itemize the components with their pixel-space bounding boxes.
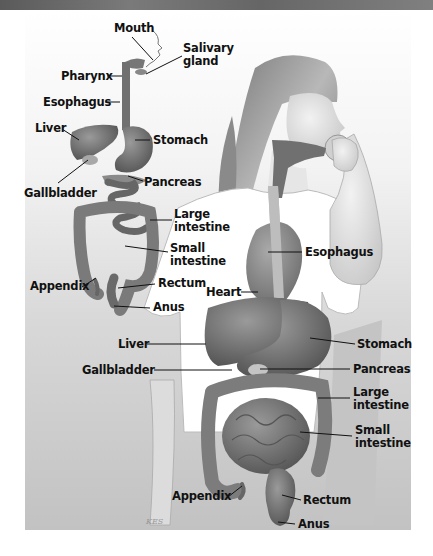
label-line: intestine: [170, 255, 226, 268]
label-line: intestine: [353, 399, 409, 412]
label-salivary-gland-schematic: Salivary gland: [183, 42, 234, 68]
label-esophagus-schematic: Esophagus: [43, 96, 111, 109]
label-small-intestine-figure: Small intestine: [355, 424, 411, 450]
label-pancreas-figure: Pancreas: [353, 363, 410, 376]
artist-signature: KES: [146, 517, 163, 526]
label-line: intestine: [174, 221, 230, 234]
label-stomach-figure: Stomach: [357, 338, 412, 351]
label-mouth-schematic: Mouth: [114, 22, 154, 35]
label-line: gland: [183, 55, 234, 68]
label-gallbladder-schematic: Gallbladder: [24, 187, 97, 200]
label-stomach-schematic: Stomach: [153, 134, 208, 147]
label-gallbladder-figure: Gallbladder: [82, 364, 155, 377]
label-appendix-schematic: Appendix: [30, 280, 89, 293]
label-appendix-figure: Appendix: [172, 490, 231, 503]
label-rectum-schematic: Rectum: [158, 277, 206, 290]
label-esophagus-figure: Esophagus: [305, 246, 373, 259]
label-liver-schematic: Liver: [35, 122, 66, 135]
label-line: intestine: [355, 437, 411, 450]
label-pancreas-schematic: Pancreas: [144, 176, 201, 189]
label-heart-figure: Heart: [206, 286, 241, 299]
digestive-illustration: [0, 0, 433, 556]
label-large-intestine-schematic: Large intestine: [174, 208, 230, 234]
label-large-intestine-figure: Large intestine: [353, 386, 409, 412]
woman-figure: [144, 55, 382, 526]
label-anus-figure: Anus: [298, 518, 329, 531]
label-anus-schematic: Anus: [153, 301, 184, 314]
label-liver-figure: Liver: [118, 338, 149, 351]
label-pharynx-schematic: Pharynx: [61, 70, 113, 83]
label-small-intestine-schematic: Small intestine: [170, 242, 226, 268]
label-rectum-figure: Rectum: [303, 494, 351, 507]
